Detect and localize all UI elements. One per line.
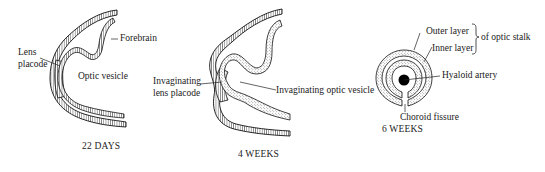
label-lens-placode: lens placode bbox=[153, 88, 200, 99]
panel-4-weeks-drawing bbox=[200, 9, 290, 136]
caption-6-weeks: 6 WEEKS bbox=[382, 124, 423, 134]
label-choroid-fissure: Choroid fissure bbox=[400, 112, 459, 123]
label-inner-layer: Inner layer bbox=[432, 43, 473, 54]
label-invaginating: Invaginating bbox=[153, 76, 201, 87]
optic-vesicle-wall bbox=[58, 18, 124, 118]
label-optic-vesicle: Optic vesicle bbox=[78, 71, 128, 82]
label-forebrain: Forebrain bbox=[120, 33, 157, 44]
invaginating-optic-vesicle-shape bbox=[219, 20, 290, 120]
caption-4-weeks: 4 WEEKS bbox=[238, 149, 279, 159]
label-of-optic-stalk: of optic stalk bbox=[481, 32, 531, 43]
label-placode: placode bbox=[18, 59, 48, 70]
label-hyaloid-artery: Hyaloid artery bbox=[442, 70, 497, 81]
panel-6-weeks-drawing bbox=[376, 24, 479, 112]
label-outer-layer: Outer layer bbox=[426, 26, 469, 37]
label-lens: Lens bbox=[18, 47, 36, 58]
optic-development-figure: Lens placode Forebrain Optic vesicle 22 … bbox=[0, 0, 545, 172]
label-invaginating-optic-vesicle: Invaginating optic vesicle bbox=[276, 85, 374, 96]
caption-22-days: 22 DAYS bbox=[82, 141, 120, 151]
panel-22-days-drawing bbox=[40, 10, 126, 127]
